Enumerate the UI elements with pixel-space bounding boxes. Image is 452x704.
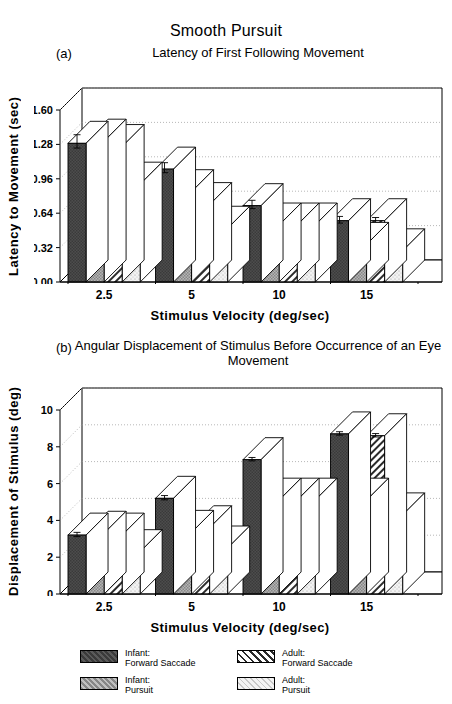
- legend-swatch-infant-pursuit: [80, 677, 118, 690]
- y-tick-label: 1.28: [34, 138, 53, 150]
- legend-item-adult-forward-saccade: Adult: Forward Saccade: [237, 648, 380, 669]
- figure-legend: Infant: Forward SaccadeAdult: Forward Sa…: [80, 648, 380, 696]
- legend-swatch-adult-forward-saccade: [237, 650, 275, 663]
- panel-a-subtitle: Latency of First Following Movement: [70, 45, 446, 60]
- y-tick-label: 0.00: [34, 276, 53, 284]
- y-tick-label: 1.60: [34, 104, 53, 116]
- legend-item-adult-pursuit: Adult: Pursuit: [237, 675, 380, 696]
- x-tick-label: 10: [272, 288, 285, 302]
- legend-swatch-adult-pursuit: [237, 677, 275, 690]
- panel-a-x-tick-labels: 2.551015: [34, 288, 446, 304]
- panel-a-plot-area: 0.000.320.640.961.281.60: [34, 86, 446, 284]
- panel-b-x-tick-labels: 2.551015: [34, 600, 446, 616]
- x-tick-label: 2.5: [96, 288, 113, 302]
- y-tick-label: 8: [47, 441, 53, 453]
- legend-item-infant-forward-saccade: Infant: Forward Saccade: [80, 648, 223, 669]
- y-tick-label: 0.32: [34, 242, 53, 254]
- legend-item-infant-pursuit: Infant: Pursuit: [80, 675, 223, 696]
- figure-main-title: Smooth Pursuit: [0, 22, 452, 40]
- legend-label-adult-pursuit: Adult: Pursuit: [282, 675, 310, 695]
- x-tick-label: 10: [272, 600, 285, 614]
- x-tick-label: 15: [360, 600, 373, 614]
- x-tick-label: 5: [188, 288, 195, 302]
- panel-a-x-axis-title: Stimulus Velocity (deg/sec): [34, 308, 446, 323]
- panel-b-x-axis-title: Stimulus Velocity (deg/sec): [34, 620, 446, 635]
- x-tick-label: 2.5: [96, 600, 113, 614]
- legend-label-infant-pursuit: Infant: Pursuit: [125, 675, 153, 695]
- bar-0-0: [68, 121, 108, 282]
- legend-label-adult-forward-saccade: Adult: Forward Saccade: [282, 648, 353, 668]
- x-tick-label: 5: [188, 600, 195, 614]
- legend-swatch-infant-forward-saccade: [80, 650, 118, 663]
- figure-smooth-pursuit: Smooth Pursuit (a) Latency of First Foll…: [0, 0, 452, 704]
- y-tick-label: 4: [47, 514, 54, 526]
- panel-b-y-axis-title: Displacement of Stimulus (deg): [6, 388, 21, 596]
- x-tick-label: 15: [360, 288, 373, 302]
- y-tick-label: 2: [47, 551, 53, 563]
- y-tick-label: 0.64: [34, 207, 54, 219]
- legend-label-infant-forward-saccade: Infant: Forward Saccade: [125, 648, 196, 668]
- y-tick-label: 6: [47, 478, 53, 490]
- panel-b-plot-area: 0246810: [34, 386, 446, 596]
- y-tick-label: 10: [41, 404, 53, 416]
- panel-b-subtitle: Angular Displacement of Stimulus Before …: [70, 338, 446, 368]
- y-tick-label: 0: [47, 588, 53, 596]
- panel-a-y-axis-title: Latency to Movement (sec): [6, 88, 21, 284]
- y-tick-label: 0.96: [34, 173, 53, 185]
